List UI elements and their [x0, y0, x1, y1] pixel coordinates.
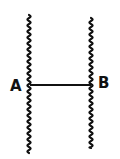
label-b: B [98, 76, 109, 91]
label-a: A [10, 79, 22, 94]
right-wavy-boundary [89, 18, 92, 148]
